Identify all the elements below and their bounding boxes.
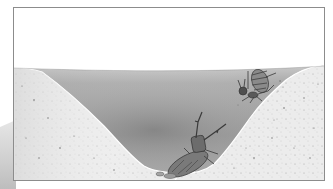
illustration-frame xyxy=(13,7,325,181)
antlion-pit-illustration xyxy=(14,8,325,181)
